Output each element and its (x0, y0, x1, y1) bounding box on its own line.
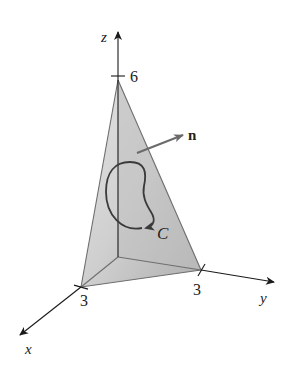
x-axis (20, 287, 81, 335)
z-tick-label: 6 (130, 68, 138, 85)
tetrahedron-diagram: z 6 x 3 y 3 n C (0, 0, 293, 369)
y-tick-label: 3 (193, 281, 201, 298)
normal-label: n (188, 127, 197, 143)
y-axis-label: y (258, 290, 267, 306)
curve-label: C (157, 224, 169, 243)
y-axis (201, 270, 274, 282)
z-axis-label: z (100, 29, 107, 45)
x-axis-label: x (24, 341, 32, 357)
tetrahedron (81, 80, 201, 287)
x-tick-label: 3 (80, 292, 88, 309)
